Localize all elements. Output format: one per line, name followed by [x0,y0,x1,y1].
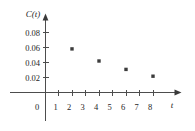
data-point-marker [70,47,73,50]
y-axis-arrow-icon [43,14,49,21]
plot-canvas: 0.08 0.06 0.04 0.02 1 2 3 4 5 6 7 8 0 C(… [0,0,195,131]
x-tick-label-5: 5 [107,102,111,112]
x-tick-label-3: 3 [80,102,84,112]
x-tick-label-1: 1 [53,102,57,112]
y-tick-label-0.02: 0.02 [25,73,40,83]
x-tick-label-8: 8 [148,102,152,112]
y-tick-label-0.04: 0.04 [25,58,41,68]
x-axis-arrow-icon [175,90,182,96]
data-point-marker [124,68,127,71]
y-tick-label-0.08: 0.08 [25,28,40,38]
x-tick-label-2: 2 [67,102,71,112]
scatter-plot-figure: 0.08 0.06 0.04 0.02 1 2 3 4 5 6 7 8 0 C(… [0,0,195,131]
data-point-marker [151,75,154,78]
origin-label: 0 [35,102,39,112]
x-tick-label-7: 7 [134,102,138,112]
x-axis-label: t [171,100,174,110]
y-tick-label-0.06: 0.06 [25,43,40,53]
x-tick-label-6: 6 [121,102,125,112]
x-tick-label-4: 4 [94,102,99,112]
data-point-marker [97,59,100,62]
y-axis-label: C(t) [26,9,41,19]
